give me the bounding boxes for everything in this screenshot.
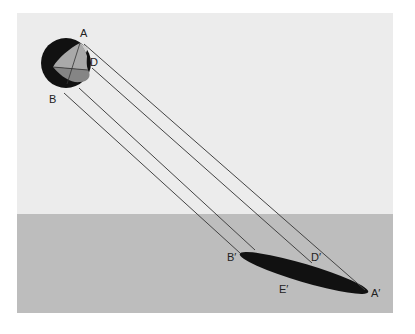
label-d-prime: D′ xyxy=(311,251,321,263)
label-b: B xyxy=(49,93,56,105)
label-b-prime: B′ xyxy=(227,251,236,263)
projection-diagram: A D B B′ D′ E′ A′ xyxy=(17,13,393,313)
label-a: A xyxy=(80,27,88,39)
ground-plane xyxy=(17,214,393,313)
diagram-panel: A D B B′ D′ E′ A′ xyxy=(17,13,393,313)
label-a-prime: A′ xyxy=(371,287,380,299)
label-d: D xyxy=(90,56,98,68)
label-e-prime: E′ xyxy=(279,283,288,295)
